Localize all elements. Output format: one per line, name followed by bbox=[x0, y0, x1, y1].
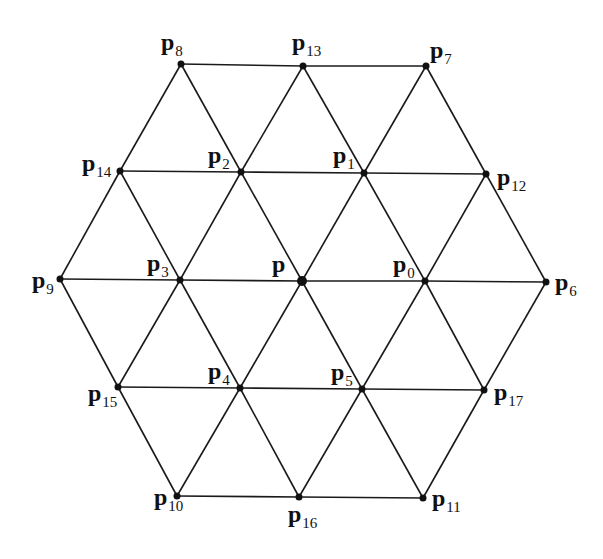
vertex-p1 bbox=[361, 170, 368, 177]
edge-p8-p14 bbox=[120, 64, 181, 171]
edge-p1-p12 bbox=[364, 173, 486, 174]
edge-p0-p5 bbox=[362, 281, 425, 389]
triangular-mesh-diagram: pp0p1p2p3p4p5p6p7p8p9p10p11p12p13p14p15p… bbox=[0, 0, 603, 559]
edge-p2-p1 bbox=[241, 172, 364, 173]
edge-p10-p16 bbox=[177, 496, 299, 497]
edge-p5-p16 bbox=[299, 389, 362, 497]
label-p7: p7 bbox=[430, 37, 452, 67]
edge-p13-p2 bbox=[241, 66, 303, 172]
edge-p4-p16 bbox=[240, 388, 299, 497]
edge-p7-p1 bbox=[364, 66, 426, 173]
label-p4: p4 bbox=[208, 358, 230, 388]
vertex-p bbox=[297, 276, 307, 286]
edge-p12-p0 bbox=[425, 174, 486, 281]
edge-p16-p11 bbox=[299, 497, 423, 498]
label-p16: p16 bbox=[288, 501, 318, 531]
edge-p4-p5 bbox=[240, 388, 362, 389]
edge-p5-p11 bbox=[362, 389, 423, 498]
label-p14: p14 bbox=[82, 150, 112, 180]
label-p11: p11 bbox=[432, 485, 461, 515]
label-p8: p8 bbox=[161, 29, 183, 59]
edge-p0-p6 bbox=[425, 281, 546, 282]
label-p1: p1 bbox=[333, 142, 355, 172]
edge-p2-p3 bbox=[180, 172, 241, 280]
vertex-p0 bbox=[422, 278, 429, 285]
label-p: p bbox=[272, 251, 285, 277]
edge-p9-p15 bbox=[60, 279, 118, 387]
vertex-p17 bbox=[481, 387, 488, 394]
edge-p14-p9 bbox=[60, 171, 120, 279]
label-p12: p12 bbox=[497, 164, 526, 194]
edge-p17-p11 bbox=[423, 390, 484, 498]
vertex-p6 bbox=[543, 279, 550, 286]
label-p13: p13 bbox=[292, 29, 321, 59]
edge-p-p4 bbox=[240, 281, 302, 388]
edge-p7-p12 bbox=[426, 66, 486, 174]
edge-p6-p17 bbox=[484, 282, 546, 390]
edge-p3-p bbox=[180, 280, 302, 281]
vertex-p15 bbox=[115, 384, 122, 391]
label-p0: p0 bbox=[393, 251, 415, 281]
label-p15: p15 bbox=[88, 380, 117, 410]
vertex-p14 bbox=[117, 168, 124, 175]
vertex-p12 bbox=[483, 171, 490, 178]
edge-p8-p13 bbox=[181, 64, 303, 66]
edge-p3-p15 bbox=[118, 280, 180, 387]
edge-p5-p17 bbox=[362, 389, 484, 390]
edge-p4-p10 bbox=[177, 388, 240, 496]
label-p6: p6 bbox=[555, 269, 577, 299]
edge-p0-p17 bbox=[425, 281, 484, 390]
vertex-p3 bbox=[177, 277, 184, 284]
vertex-p9 bbox=[57, 276, 64, 283]
vertex-p2 bbox=[238, 169, 245, 176]
vertex-p8 bbox=[178, 61, 185, 68]
edge-p15-p10 bbox=[118, 387, 177, 496]
label-p17: p17 bbox=[494, 379, 524, 409]
label-p5: p5 bbox=[331, 359, 353, 389]
vertex-p5 bbox=[359, 386, 366, 393]
vertex-p11 bbox=[420, 495, 427, 502]
edge-p1-p bbox=[302, 173, 364, 281]
vertex-p7 bbox=[423, 63, 430, 70]
vertex-p16 bbox=[296, 494, 303, 501]
label-p10: p10 bbox=[154, 484, 183, 514]
vertex-p4 bbox=[237, 385, 244, 392]
vertex-p13 bbox=[300, 63, 307, 70]
label-p9: p9 bbox=[32, 267, 54, 297]
